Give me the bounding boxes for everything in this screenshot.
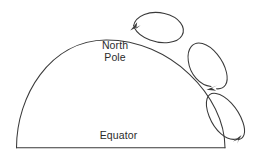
equator-label: Equator (0, 130, 237, 142)
polar-cell-loop-path (134, 12, 184, 42)
north-pole-label: North Pole (0, 40, 230, 63)
north-pole-label-line2: Pole (0, 52, 230, 64)
polar-cell-loop (130, 12, 183, 42)
north-pole-label-line1: North (0, 40, 230, 52)
hemisphere-circulation-diagram: North Pole Equator (0, 0, 266, 158)
